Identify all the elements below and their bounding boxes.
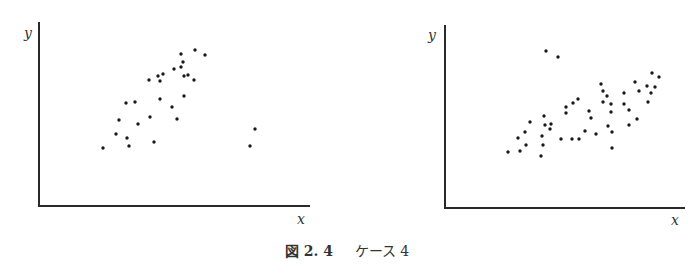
- data-point: [170, 105, 173, 108]
- data-point: [587, 109, 590, 112]
- x-axis-label-right: x: [671, 212, 679, 228]
- data-points-right: [506, 49, 660, 157]
- data-point: [117, 118, 120, 121]
- data-point: [539, 154, 542, 157]
- data-point: [253, 127, 256, 130]
- data-point: [133, 100, 136, 103]
- data-point: [609, 102, 612, 105]
- data-point: [181, 60, 184, 63]
- data-point: [646, 100, 649, 103]
- data-point: [549, 122, 552, 125]
- data-point: [622, 91, 625, 94]
- scatter-plot-right: y x: [427, 25, 685, 228]
- data-point: [192, 78, 195, 81]
- data-point: [571, 101, 574, 104]
- data-point: [605, 94, 608, 97]
- data-point: [161, 72, 164, 75]
- data-point: [136, 122, 139, 125]
- data-point: [248, 144, 251, 147]
- data-point: [182, 74, 185, 77]
- data-point: [158, 97, 161, 100]
- data-point: [101, 146, 104, 149]
- figure-caption: 図 2. 4ケース 4: [0, 240, 694, 260]
- data-point: [627, 108, 630, 111]
- axes-right: [445, 25, 685, 208]
- data-point: [179, 65, 182, 68]
- y-axis-label-right: y: [427, 27, 437, 43]
- data-point: [186, 73, 189, 76]
- data-point: [540, 134, 543, 137]
- data-point: [158, 79, 161, 82]
- data-points-left: [101, 48, 256, 149]
- data-point: [175, 117, 178, 120]
- data-point: [544, 49, 547, 52]
- data-point: [576, 97, 579, 100]
- data-point: [570, 137, 573, 140]
- data-point: [601, 100, 604, 103]
- data-point: [147, 78, 150, 81]
- data-point: [589, 116, 592, 119]
- figure-title: ケース 4: [355, 243, 409, 259]
- x-axis-label-left: x: [297, 211, 305, 227]
- data-point: [114, 132, 117, 135]
- data-point: [599, 82, 602, 85]
- data-point: [649, 91, 652, 94]
- data-point: [594, 132, 597, 135]
- y-axis-label-left: y: [23, 25, 33, 41]
- data-point: [622, 102, 625, 105]
- data-point: [518, 149, 521, 152]
- data-point: [542, 114, 545, 117]
- data-point: [541, 143, 544, 146]
- data-point: [172, 67, 175, 70]
- data-point: [564, 111, 567, 114]
- data-point: [179, 52, 182, 55]
- data-point: [203, 53, 206, 56]
- scatter-plot-left: y x: [23, 22, 310, 227]
- data-point: [645, 84, 648, 87]
- data-point: [124, 101, 127, 104]
- data-point: [583, 129, 586, 132]
- data-point: [125, 136, 128, 139]
- data-point: [523, 130, 526, 133]
- axes-left: [39, 22, 310, 206]
- data-point: [559, 137, 562, 140]
- data-point: [610, 146, 613, 149]
- data-point: [152, 140, 155, 143]
- figure-canvas: y x y x: [0, 0, 694, 268]
- data-point: [528, 120, 531, 123]
- data-point: [637, 89, 640, 92]
- data-point: [627, 123, 630, 126]
- data-point: [182, 94, 185, 97]
- data-point: [601, 89, 604, 92]
- data-point: [548, 127, 551, 130]
- data-point: [506, 150, 509, 153]
- data-point: [657, 75, 660, 78]
- data-point: [653, 85, 656, 88]
- data-point: [606, 124, 609, 127]
- data-point: [610, 130, 613, 133]
- data-point: [564, 105, 567, 108]
- data-point: [650, 71, 653, 74]
- data-point: [577, 137, 580, 140]
- data-point: [127, 144, 130, 147]
- data-point: [609, 110, 612, 113]
- data-point: [193, 48, 196, 51]
- data-point: [635, 117, 638, 120]
- data-point: [543, 123, 546, 126]
- data-point: [556, 55, 559, 58]
- data-point: [148, 115, 151, 118]
- data-point: [156, 74, 159, 77]
- data-point: [633, 80, 636, 83]
- data-point: [524, 143, 527, 146]
- figure-number: 図 2. 4: [285, 243, 333, 259]
- data-point: [516, 136, 519, 139]
